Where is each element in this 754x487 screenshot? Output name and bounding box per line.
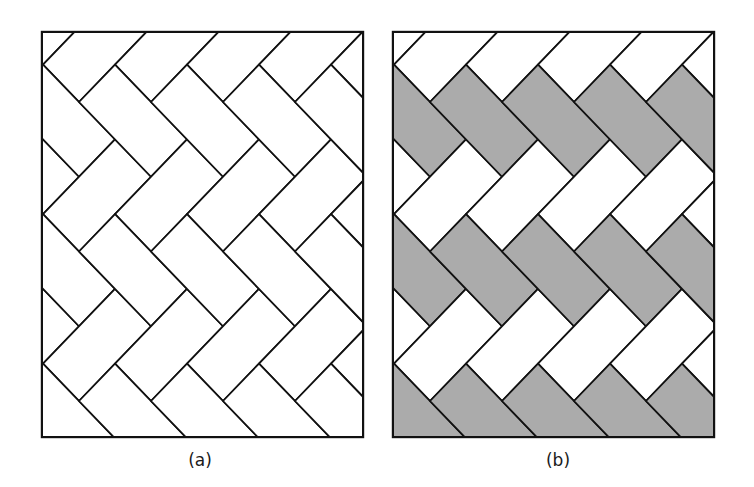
brick-down-right [727, 65, 754, 177]
brick-up-right [619, 438, 727, 487]
brick-down-right [0, 65, 34, 177]
brick-down-right [0, 65, 43, 177]
brick-down-right [142, 0, 250, 27]
brick-down-right [646, 0, 754, 27]
brick-up-right [259, 438, 367, 487]
brick-up-right [250, 438, 358, 487]
brick-up-right [331, 438, 439, 487]
brick-down-right [718, 65, 754, 177]
brick-up-right [0, 438, 79, 487]
brick-down-right [70, 0, 178, 27]
brick-down-right [718, 364, 754, 476]
brick-down-right [583, 0, 691, 27]
brick-down-right [718, 0, 754, 27]
brick-up-right [403, 438, 511, 487]
brick-up-right [691, 438, 754, 487]
brick-up-right [34, 438, 142, 487]
brick-up-right [0, 438, 70, 487]
brick-up-right [322, 438, 430, 487]
herringbone-tiling-shaded [392, 31, 715, 438]
brick-down-right [727, 214, 754, 326]
brick-down-right [0, 0, 34, 27]
brick-down-right [0, 214, 34, 326]
brick-down-right [0, 0, 106, 27]
brick-down-right [151, 0, 259, 27]
brick-down-right [511, 0, 619, 27]
brick-down-right [502, 0, 610, 27]
brick-down-right [79, 0, 187, 27]
herringbone-tiling-unshaded [41, 31, 364, 438]
panel-b-caption: (b) [518, 450, 598, 470]
brick-up-right [0, 438, 7, 487]
panel-a [41, 31, 364, 438]
brick-down-right [0, 364, 34, 476]
panel-b [392, 31, 715, 438]
brick-down-right [0, 214, 43, 326]
brick-down-right [439, 0, 547, 27]
brick-up-right [43, 438, 151, 487]
brick-down-right [367, 0, 475, 27]
brick-up-right [682, 438, 754, 487]
brick-down-right [0, 364, 43, 476]
brick-up-right [394, 438, 502, 487]
brick-down-right [727, 364, 754, 476]
brick-down-right [574, 0, 682, 27]
brick-down-right [286, 0, 394, 27]
brick-up-right [0, 0, 7, 102]
brick-down-right [358, 0, 466, 27]
panel-a-caption: (a) [160, 450, 240, 470]
brick-down-right [727, 0, 754, 27]
brick-down-right [7, 0, 115, 27]
brick-down-right [430, 0, 538, 27]
brick-down-right [718, 214, 754, 326]
brick-up-right [0, 289, 7, 401]
brick-down-right [214, 0, 322, 27]
brick-down-right [655, 0, 754, 27]
brick-down-right [295, 0, 403, 27]
brick-up-right [0, 139, 7, 251]
brick-up-right [610, 438, 718, 487]
brick-down-right [223, 0, 331, 27]
brick-down-right [0, 0, 43, 27]
